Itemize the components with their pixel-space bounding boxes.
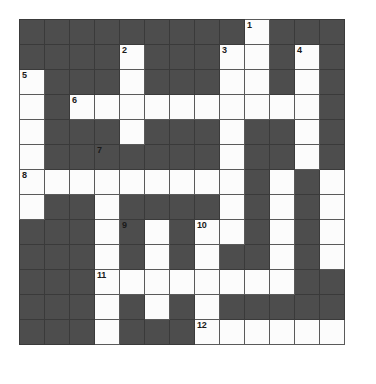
crossword-cell-open[interactable]: 3	[220, 45, 245, 70]
crossword-cell-open[interactable]	[295, 145, 320, 170]
crossword-cell-open[interactable]	[145, 170, 170, 195]
crossword-row: 910	[20, 220, 345, 245]
crossword-cell-block	[320, 95, 345, 120]
crossword-grid[interactable]: 123456789101112	[19, 19, 345, 345]
crossword-cell-block	[170, 195, 195, 220]
crossword-cell-open[interactable]	[295, 95, 320, 120]
crossword-cell-open[interactable]	[195, 170, 220, 195]
crossword-cell-block	[245, 220, 270, 245]
crossword-cell-open[interactable]	[195, 270, 220, 295]
clue-number: 6	[72, 95, 77, 106]
crossword-cell-open[interactable]: 8	[20, 170, 45, 195]
crossword-cell-open[interactable]	[220, 120, 245, 145]
crossword-cell-open[interactable]	[95, 95, 120, 120]
crossword-cell-open[interactable]	[270, 245, 295, 270]
crossword-cell-open[interactable]	[95, 295, 120, 320]
crossword-cell-open[interactable]	[220, 320, 245, 345]
crossword-cell-block	[195, 120, 220, 145]
crossword-cell-open[interactable]	[320, 195, 345, 220]
crossword-cell-open[interactable]	[120, 270, 145, 295]
crossword-cell-block	[245, 295, 270, 320]
crossword-cell-open[interactable]	[45, 170, 70, 195]
crossword-cell-open[interactable]	[245, 45, 270, 70]
crossword-cell-open[interactable]	[20, 195, 45, 220]
crossword-cell-open[interactable]	[95, 245, 120, 270]
crossword-cell-open[interactable]	[270, 170, 295, 195]
crossword-row	[20, 195, 345, 220]
crossword-cell-open[interactable]	[170, 95, 195, 120]
crossword-cell-block	[120, 145, 145, 170]
crossword-cell-open[interactable]	[295, 120, 320, 145]
crossword-cell-block	[95, 120, 120, 145]
crossword-cell-open[interactable]	[120, 95, 145, 120]
crossword-cell-open[interactable]	[320, 220, 345, 245]
crossword-cell-open[interactable]	[70, 170, 95, 195]
crossword-cell-block	[45, 270, 70, 295]
crossword-cell-open[interactable]	[220, 95, 245, 120]
clue-number: 8	[22, 170, 27, 181]
crossword-cell-open[interactable]	[95, 170, 120, 195]
crossword-cell-open[interactable]	[145, 245, 170, 270]
crossword-cell-open[interactable]	[195, 295, 220, 320]
crossword-row: 6	[20, 95, 345, 120]
crossword-cell-open[interactable]	[320, 320, 345, 345]
crossword-cell-open[interactable]	[195, 245, 220, 270]
crossword-cell-open[interactable]	[170, 270, 195, 295]
crossword-cell-open[interactable]	[120, 70, 145, 95]
crossword-cell-open[interactable]	[145, 295, 170, 320]
clue-number: 4	[297, 45, 302, 56]
crossword-cell-open[interactable]	[220, 270, 245, 295]
crossword-cell-open[interactable]	[145, 95, 170, 120]
crossword-cell-open[interactable]	[95, 220, 120, 245]
crossword-cell-open[interactable]: 4	[295, 45, 320, 70]
crossword-cell-block	[320, 295, 345, 320]
crossword-cell-open[interactable]	[320, 170, 345, 195]
crossword-cell-open[interactable]	[20, 95, 45, 120]
crossword-cell-open[interactable]: 2	[120, 45, 145, 70]
crossword-cell-block	[45, 245, 70, 270]
crossword-cell-open[interactable]: 5	[20, 70, 45, 95]
crossword-cell-open[interactable]	[270, 320, 295, 345]
crossword-cell-block	[170, 145, 195, 170]
crossword-cell-block	[270, 120, 295, 145]
crossword-cell-open[interactable]	[245, 95, 270, 120]
crossword-cell-open[interactable]	[20, 145, 45, 170]
crossword-row	[20, 120, 345, 145]
crossword-cell-open[interactable]	[120, 120, 145, 145]
crossword-cell-open[interactable]: 6	[70, 95, 95, 120]
crossword-cell-block	[295, 170, 320, 195]
crossword-cell-open[interactable]	[220, 170, 245, 195]
crossword-cell-open[interactable]	[270, 220, 295, 245]
crossword-cell-open[interactable]	[270, 270, 295, 295]
crossword-cell-open[interactable]	[245, 320, 270, 345]
crossword-cell-open[interactable]	[145, 220, 170, 245]
crossword-cell-open[interactable]	[145, 270, 170, 295]
crossword-cell-open[interactable]	[245, 70, 270, 95]
crossword-cell-open[interactable]: 11	[95, 270, 120, 295]
crossword-cell-open[interactable]: 12	[195, 320, 220, 345]
crossword-cell-open[interactable]	[220, 70, 245, 95]
crossword-cell-open[interactable]	[195, 95, 220, 120]
crossword-cell-block	[95, 70, 120, 95]
crossword-cell-open[interactable]	[95, 195, 120, 220]
crossword-cell-open[interactable]	[270, 195, 295, 220]
crossword-cell-open[interactable]	[295, 70, 320, 95]
crossword-cell-open[interactable]	[20, 120, 45, 145]
crossword-cell-open[interactable]	[220, 195, 245, 220]
crossword-cell-open[interactable]	[270, 95, 295, 120]
crossword-cell-block	[170, 245, 195, 270]
crossword-cell-open[interactable]	[120, 170, 145, 195]
crossword-cell-block	[120, 295, 145, 320]
crossword-cell-open[interactable]	[220, 145, 245, 170]
crossword-cell-block	[245, 145, 270, 170]
crossword-cell-open[interactable]	[170, 170, 195, 195]
crossword-cell-block	[295, 295, 320, 320]
crossword-cell-open[interactable]: 10	[195, 220, 220, 245]
crossword-cell-open[interactable]: 1	[245, 20, 270, 45]
crossword-cell-open[interactable]	[320, 245, 345, 270]
crossword-cell-open[interactable]	[220, 220, 245, 245]
crossword-cell-open[interactable]	[95, 320, 120, 345]
crossword-cell-block	[45, 195, 70, 220]
crossword-cell-open[interactable]	[245, 270, 270, 295]
crossword-cell-open[interactable]	[295, 320, 320, 345]
